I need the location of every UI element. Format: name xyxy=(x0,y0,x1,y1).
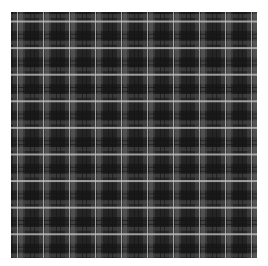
plaid-pattern-image xyxy=(11,12,257,258)
bright-line-layer xyxy=(11,12,257,258)
